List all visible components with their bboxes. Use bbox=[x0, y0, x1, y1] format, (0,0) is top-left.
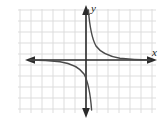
y-axis-arrow-down bbox=[82, 108, 90, 118]
hyperbola-graph-figure: y x bbox=[0, 0, 165, 123]
graph-canvas: y x bbox=[0, 0, 165, 123]
y-axis bbox=[82, 5, 90, 118]
curve-branch-quadrant-3 bbox=[30, 60, 92, 110]
x-axis-label: x bbox=[151, 46, 157, 58]
grid-lines bbox=[18, 9, 156, 113]
y-axis-label: y bbox=[90, 2, 96, 14]
